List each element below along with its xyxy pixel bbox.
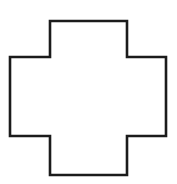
cross-shape-svg [0, 0, 177, 184]
figure-canvas [0, 0, 177, 184]
cross-shape-outline [10, 21, 166, 175]
